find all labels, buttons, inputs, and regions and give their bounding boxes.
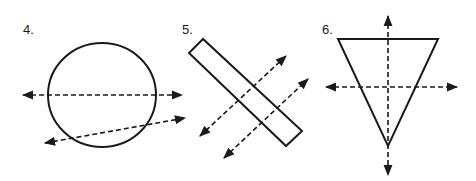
figure-5-label: 5.: [182, 22, 193, 37]
diagram-canvas: [0, 0, 476, 181]
dashed-double-arrow-line: [224, 79, 308, 158]
dashed-double-arrow-line: [200, 56, 286, 136]
figure-6-triangle: [326, 16, 457, 175]
figure-5-rectangle: [189, 39, 308, 158]
figure-4-label: 4.: [23, 22, 34, 37]
figure-4-circle: [23, 43, 185, 147]
figure-6-label: 6.: [322, 22, 333, 37]
dashed-double-arrow-line: [45, 118, 185, 143]
